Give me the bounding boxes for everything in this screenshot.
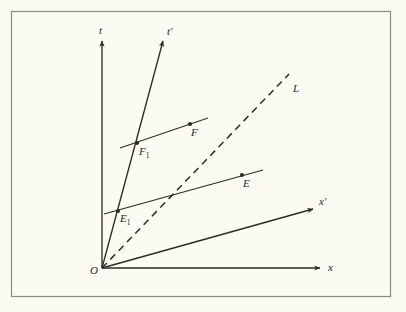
x-axis-label: x bbox=[327, 261, 333, 273]
paper-background bbox=[0, 0, 406, 312]
x-prime-axis-label: x' bbox=[318, 195, 327, 207]
event-label-e1-subscript: 1 bbox=[127, 218, 131, 227]
spacetime-diagram-figure: t t' x x' L O F1 F E1 E bbox=[0, 0, 406, 312]
origin-label: O bbox=[90, 264, 98, 276]
light-line-label: L bbox=[292, 82, 299, 94]
diagram-canvas: t t' x x' L O F1 F E1 E bbox=[0, 0, 406, 312]
t-prime-axis-label: t' bbox=[167, 25, 173, 37]
event-label-f1-subscript: 1 bbox=[146, 151, 150, 160]
event-label-f: F bbox=[190, 126, 198, 138]
event-label-e: E bbox=[242, 177, 250, 189]
